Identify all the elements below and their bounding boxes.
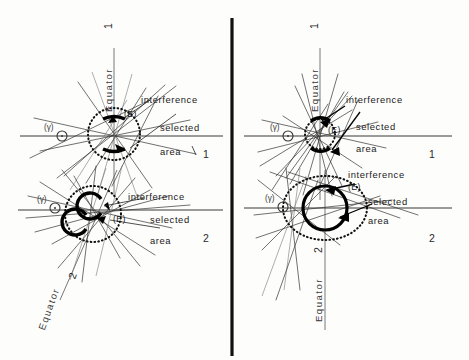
gamma-dot-bl [54, 207, 56, 209]
diagram-svg: (γ) (E) interference selected area Equat… [0, 0, 469, 360]
area-label-tr: area [356, 143, 377, 154]
equator-label-tr: Equator [309, 68, 320, 112]
equator-text-group-tl: Equator [103, 68, 114, 112]
arrowhead-bottom-tr [330, 147, 340, 156]
center-label-tl: (E) [124, 109, 137, 119]
equator-label-tl: Equator [103, 68, 114, 112]
gamma-label-bl: (γ) [37, 195, 47, 204]
center-label-br: (E) [348, 182, 361, 192]
gamma-label-br: (γ) [265, 194, 275, 203]
equator-text-group-tr: Equator [309, 68, 320, 112]
selected-label-tl: selected [160, 122, 200, 133]
equator-number-tl: 1 [102, 23, 114, 29]
area-label-tl: area [160, 146, 181, 157]
interference-label-tl: interference [141, 94, 198, 105]
selected-label-bl: selected [150, 214, 190, 225]
equator-label-br: Equator [313, 278, 324, 322]
row-number-tl: 1 [203, 148, 209, 160]
interference-label-bl: interference [128, 191, 185, 202]
gamma-dot-tl [61, 135, 63, 137]
row-number-tr: 1 [429, 148, 435, 160]
gamma-label-tl: (γ) [44, 123, 54, 132]
panel-bottom-right: (γ) (E) interference selected area Equat… [244, 168, 452, 330]
gamma-label-tr: (γ) [270, 123, 280, 132]
area-label-br: area [368, 215, 389, 226]
figure-canvas: (γ) (E) interference selected area Equat… [0, 0, 469, 360]
center-label-tr: (E) [328, 125, 341, 135]
equator-text-group-br: Equator [313, 278, 324, 322]
equator-number-tr: 1 [308, 23, 320, 29]
area-label-bl: area [150, 235, 171, 246]
equator-number-br: 2 [312, 247, 324, 253]
equator-label-bl: Equator [36, 286, 61, 331]
center-label-bl: (E) [113, 214, 126, 224]
interference-label-tr: interference [346, 94, 403, 105]
row-number-bl: 2 [203, 232, 209, 244]
equator-number-group-br: 2 [312, 247, 324, 253]
panel-bottom-left: (γ) (E) interference selected area Equat… [18, 166, 223, 331]
equator-number-group-tr: 1 [308, 23, 320, 29]
selected-label-br: selected [368, 196, 408, 207]
selected-label-tr: selected [356, 121, 396, 132]
panel-top-left: (γ) (E) interference selected area Equat… [20, 23, 223, 196]
interference-arc-upper-bl [77, 193, 101, 219]
equator-number-group-tl: 1 [102, 23, 114, 29]
interference-label-br: interference [348, 169, 405, 180]
gamma-dot-tr [287, 135, 289, 137]
row-number-br: 2 [429, 232, 435, 244]
equator-text-group-bl: Equator [36, 286, 61, 331]
